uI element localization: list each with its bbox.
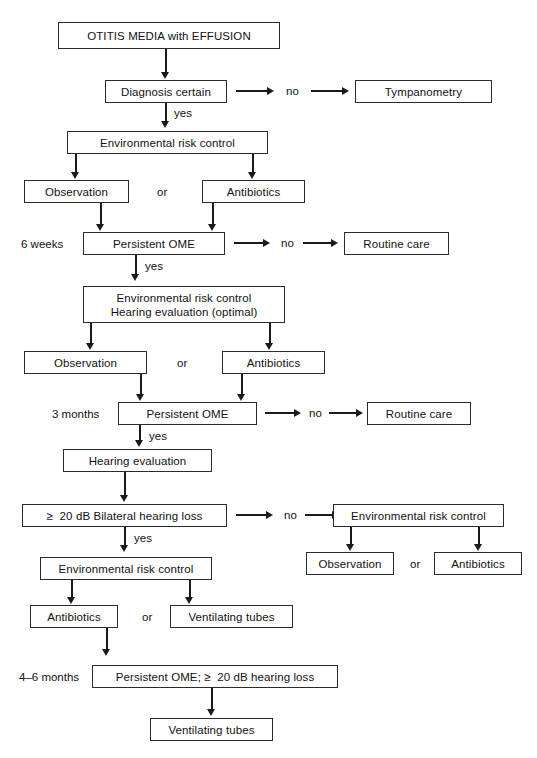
arrowhead-down	[136, 394, 144, 401]
connector-persistent-ome-1-to-no	[234, 242, 264, 244]
connector-persistent-ome-2-to-no	[265, 412, 295, 414]
arrowhead-right	[331, 239, 338, 247]
node-ventilating-tubes-2[interactable]: Ventilating tubes	[150, 718, 273, 741]
arrowhead-down	[161, 72, 169, 79]
node-observation-right[interactable]: Observation	[306, 552, 394, 575]
arrowhead-down	[96, 224, 104, 231]
edge-label-no-3: no	[309, 406, 322, 420]
arrowhead-right	[342, 87, 349, 95]
node-label-line-1: Environmental risk control	[117, 291, 252, 305]
node-label: Environmental risk control	[351, 509, 486, 523]
node-antibiotics-1[interactable]: Antibiotics	[202, 180, 305, 203]
connector-env-risk-to-antibiotics-1	[252, 154, 254, 173]
node-environmental-risk-control-1[interactable]: Environmental risk control	[67, 131, 268, 154]
timeline-label-4-6-months: 4–6 months	[19, 670, 79, 684]
timeline-label-6-weeks: 6 weeks	[21, 237, 63, 251]
connector-to-observation-2	[90, 323, 92, 344]
connector-bilateral-loss-to-no	[236, 514, 267, 516]
node-observation-1[interactable]: Observation	[24, 180, 129, 203]
connector-env-risk-to-observation-1	[75, 154, 77, 173]
node-label: Persistent OME	[147, 407, 229, 421]
node-label: Observation	[45, 185, 108, 199]
node-label: Diagnosis certain	[121, 85, 211, 99]
arrowhead-down	[346, 544, 354, 551]
edge-label-yes-4: yes	[134, 531, 152, 545]
connector-antibiotics-2-to-persistent-ome-2	[241, 374, 243, 395]
edge-label-or-1: or	[157, 185, 167, 199]
node-persistent-ome-hearing-loss[interactable]: Persistent OME; ≥ 20 dB hearing loss	[92, 665, 338, 688]
node-label: Hearing evaluation	[89, 454, 187, 468]
arrowhead-down	[102, 649, 110, 656]
edge-label-or-3: or	[410, 557, 420, 571]
arrowhead-down	[67, 597, 75, 604]
node-antibiotics-right[interactable]: Antibiotics	[434, 552, 522, 575]
node-persistent-ome-2[interactable]: Persistent OME	[118, 402, 257, 425]
node-antibiotics-2[interactable]: Antibiotics	[222, 351, 325, 374]
node-routine-care-2[interactable]: Routine care	[367, 402, 471, 425]
node-label: ≥ 20 dB Bilateral hearing loss	[47, 509, 203, 523]
arrowhead-down	[208, 224, 216, 231]
connector-env-risk-right-to-observation	[350, 527, 352, 545]
connector-persistent-ome-2-yes	[139, 425, 141, 441]
arrowhead-down	[71, 172, 79, 179]
node-label: Antibiotics	[47, 610, 101, 624]
node-tympanometry[interactable]: Tympanometry	[355, 80, 492, 103]
connector-antibiotics-3-to-persistent-ome-hearing-loss	[106, 628, 108, 650]
node-persistent-ome-1[interactable]: Persistent OME	[83, 232, 225, 255]
connector-persistent-ome-to-ventilating-tubes-2	[211, 688, 213, 710]
arrowhead-down	[474, 544, 482, 551]
node-label: Environmental risk control	[59, 562, 194, 576]
edge-label-no-4: no	[284, 508, 297, 522]
arrowhead-down	[161, 121, 169, 128]
arrowhead-down	[265, 343, 273, 350]
edge-label-no-2: no	[281, 236, 294, 250]
node-label: Antibiotics	[227, 185, 281, 199]
node-hearing-evaluation[interactable]: Hearing evaluation	[63, 449, 212, 472]
arrowhead-down	[120, 495, 128, 502]
connector-start-to-diagnosis	[165, 49, 167, 73]
node-ventilating-tubes-1[interactable]: Ventilating tubes	[170, 605, 293, 628]
node-bilateral-hearing-loss[interactable]: ≥ 20 dB Bilateral hearing loss	[22, 504, 227, 527]
connector-diagnosis-to-env-risk	[165, 103, 167, 122]
node-environmental-risk-and-hearing-evaluation[interactable]: Environmental risk control Hearing evalu…	[83, 286, 285, 323]
arrowhead-down	[185, 597, 193, 604]
node-label: Routine care	[363, 237, 429, 251]
node-environmental-risk-control-right[interactable]: Environmental risk control	[333, 504, 504, 527]
arrowhead-down	[86, 343, 94, 350]
connector-env-risk-2-to-antibiotics-3	[71, 580, 73, 598]
connector-no-to-tympanometry	[311, 90, 343, 92]
connector-bilateral-loss-yes	[124, 527, 126, 546]
arrowhead-right	[356, 409, 363, 417]
edge-label-or-2: or	[177, 356, 187, 370]
arrowhead-right	[263, 239, 270, 247]
node-observation-2[interactable]: Observation	[24, 351, 147, 374]
connector-env-risk-2-to-ventilating-tubes-1	[189, 580, 191, 598]
connector-antibiotics-1-to-persistent-ome-1	[212, 203, 214, 225]
arrowhead-right	[266, 511, 273, 519]
node-environmental-risk-control-2[interactable]: Environmental risk control	[40, 557, 212, 580]
connector-no-to-routine-care-1	[303, 242, 332, 244]
connector-observation-1-to-persistent-ome-1	[100, 203, 102, 225]
timeline-label-3-months: 3 months	[52, 407, 99, 421]
arrowhead-right	[294, 409, 301, 417]
node-label: Routine care	[386, 407, 452, 421]
connector-diagnosis-to-no	[236, 90, 268, 92]
node-otitis-media-with-effusion[interactable]: OTITIS MEDIA with EFFUSION	[58, 22, 280, 49]
arrowhead-right	[267, 87, 274, 95]
node-label-line-2: Hearing evaluation (optimal)	[111, 305, 258, 319]
node-label: Ventilating tubes	[188, 610, 274, 624]
arrowhead-down	[237, 394, 245, 401]
node-antibiotics-3[interactable]: Antibiotics	[30, 605, 118, 628]
node-label: Observation	[54, 356, 117, 370]
node-label: Antibiotics	[451, 557, 505, 571]
connector-hearing-evaluation-to-bilateral-loss	[124, 472, 126, 496]
edge-label-no-1: no	[286, 84, 299, 98]
node-label: Persistent OME; ≥ 20 dB hearing loss	[116, 670, 315, 684]
node-label: Environmental risk control	[100, 136, 235, 150]
flowchart-canvas: OTITIS MEDIA with EFFUSION Diagnosis cer…	[0, 0, 537, 758]
node-label: OTITIS MEDIA with EFFUSION	[87, 29, 251, 43]
connector-no-to-env-risk-right	[305, 514, 333, 516]
arrowhead-down	[248, 172, 256, 179]
node-diagnosis-certain[interactable]: Diagnosis certain	[105, 80, 227, 103]
node-routine-care-1[interactable]: Routine care	[344, 232, 449, 255]
